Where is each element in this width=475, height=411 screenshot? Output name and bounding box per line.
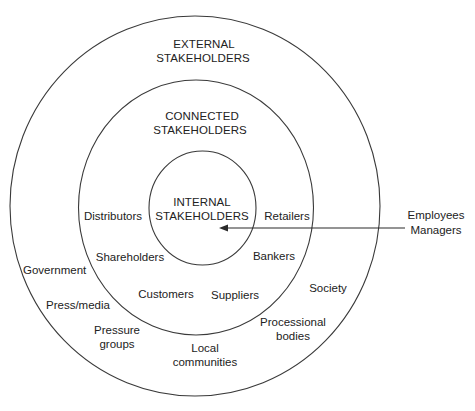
connected-title-line-1: CONNECTED: [165, 110, 239, 122]
external-title-line-1: EXTERNAL: [173, 38, 235, 50]
external-ring-title: EXTERNAL STAKEHOLDERS: [156, 38, 250, 64]
stakeholder-diagram: EXTERNAL STAKEHOLDERS CONNECTED STAKEHOL…: [0, 0, 475, 411]
arrow-head-icon: [219, 225, 228, 232]
local-communities-line-2: communities: [173, 356, 238, 368]
label-customers: Customers: [138, 288, 194, 300]
label-professional-bodies: Processional bodies: [260, 316, 326, 342]
label-shareholders: Shareholders: [96, 251, 165, 263]
internal-ring-title: INTERNAL STAKEHOLDERS: [155, 196, 249, 222]
label-government: Government: [23, 264, 87, 276]
internal-title-line-2: STAKEHOLDERS: [155, 210, 249, 222]
label-distributors: Distributors: [84, 210, 142, 222]
internal-ring: [149, 151, 256, 265]
label-pressure-groups: Pressure groups: [94, 324, 140, 350]
label-press-media: Press/media: [46, 299, 111, 311]
pressure-groups-line-2: groups: [99, 338, 134, 350]
label-employees: Employees: [408, 209, 465, 221]
internal-callout-labels: Employees Managers: [408, 209, 465, 236]
local-communities-line-1: Local: [191, 342, 219, 354]
connected-title-line-2: STAKEHOLDERS: [153, 124, 247, 136]
label-managers: Managers: [410, 224, 461, 236]
professional-bodies-line-1: Processional: [260, 316, 326, 328]
external-title-line-2: STAKEHOLDERS: [156, 52, 250, 64]
label-local-communities: Local communities: [173, 342, 238, 368]
connected-ring-title: CONNECTED STAKEHOLDERS: [153, 110, 247, 136]
label-retailers: Retailers: [264, 210, 310, 222]
label-bankers: Bankers: [253, 250, 295, 262]
label-suppliers: Suppliers: [211, 289, 259, 301]
pressure-groups-line-1: Pressure: [94, 324, 140, 336]
professional-bodies-line-2: bodies: [276, 330, 310, 342]
internal-title-line-1: INTERNAL: [173, 196, 231, 208]
label-society: Society: [309, 282, 347, 294]
